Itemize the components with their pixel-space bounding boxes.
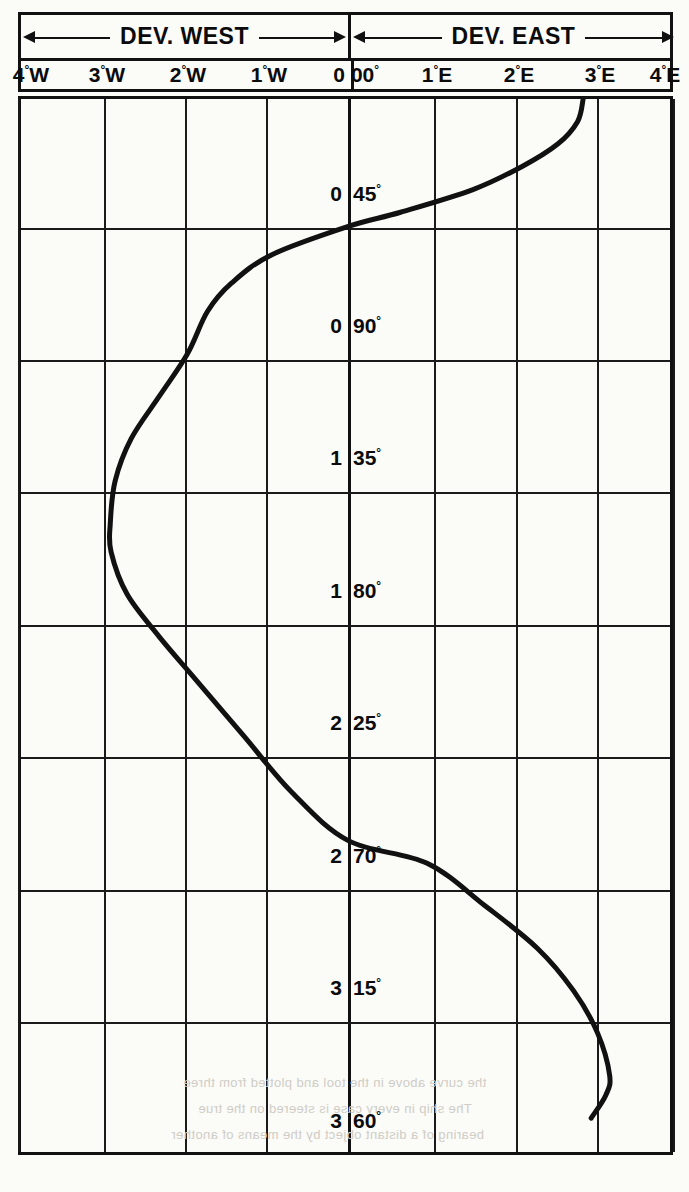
y-axis-label-left: 3 <box>330 1110 342 1131</box>
header-half-east: DEV. EAST <box>351 15 676 58</box>
chart-header-band: DEV. WEST DEV. EAST <box>18 12 673 58</box>
y-axis-label-left: 2 <box>330 712 342 733</box>
y-axis-label-right: 25° <box>353 712 381 733</box>
arrow-left-icon <box>23 31 35 43</box>
y-axis-label-right: 45° <box>353 183 381 204</box>
y-axis-label-left: 2 <box>330 845 342 866</box>
x-tick-label: 2°W <box>170 63 206 87</box>
deviation-chart: DEV. WEST DEV. EAST 4°W3°W2°W1°W000°1°E2… <box>0 0 689 1192</box>
y-axis-label-right: 90° <box>353 315 381 336</box>
arrow-left-icon <box>353 31 365 43</box>
x-tick-label: 00° <box>351 63 379 87</box>
x-tick-label: 1°W <box>251 63 287 87</box>
header-half-west: DEV. WEST <box>21 15 351 58</box>
x-axis-tick-band: 4°W3°W2°W1°W000°1°E2°E3°E4°E <box>18 58 673 92</box>
y-axis-label-left: 0 <box>330 315 342 336</box>
dev-west-label: DEV. WEST <box>110 23 259 50</box>
y-axis-label-left: 0 <box>330 183 342 204</box>
y-axis-label-right: 15° <box>353 977 381 998</box>
deviation-curve <box>21 99 670 1152</box>
x-tick-label: 4°E <box>650 63 681 87</box>
arrow-right-icon <box>662 31 674 43</box>
x-tick-label: 2°E <box>504 63 535 87</box>
x-tick-label: 4°W <box>13 63 49 87</box>
y-axis-label-right: 35° <box>353 447 381 468</box>
x-tick-label: 3°E <box>585 63 616 87</box>
y-axis-label-right: 60° <box>353 1110 381 1131</box>
plot-area: the curve above in the tool and plotted … <box>18 96 673 1155</box>
x-tick-label: 0 <box>333 63 345 87</box>
x-tick-label: 3°W <box>89 63 125 87</box>
y-axis-label-left: 1 <box>330 447 342 468</box>
y-axis-label-left: 3 <box>330 977 342 998</box>
arrow-right-icon <box>334 31 346 43</box>
y-axis-label-left: 1 <box>330 580 342 601</box>
y-axis-label-right: 70° <box>353 845 381 866</box>
dev-east-label: DEV. EAST <box>442 23 586 50</box>
x-gridline <box>18 99 20 1152</box>
y-axis-label-right: 80° <box>353 580 381 601</box>
x-tick-label: 1°E <box>422 63 453 87</box>
x-gridline <box>673 99 675 1152</box>
